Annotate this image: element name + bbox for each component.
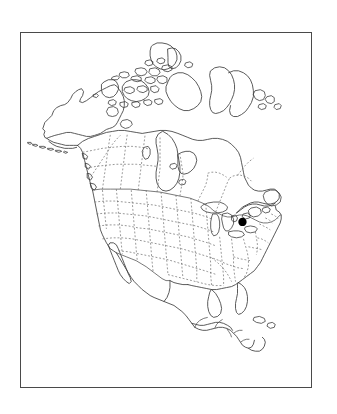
landmass-greenland-edge xyxy=(210,67,282,117)
landmass-pacific-northwest-coast xyxy=(78,145,97,190)
water-hudson-bay xyxy=(156,131,197,191)
study-site-marker xyxy=(238,218,246,226)
subnational-borders-us xyxy=(94,189,278,285)
figure-root xyxy=(0,0,337,414)
landmass-mexico-central-america xyxy=(192,290,275,352)
landmass-united-states xyxy=(93,189,282,327)
subnational-borders-canada xyxy=(83,134,254,212)
map-canvas xyxy=(21,33,311,387)
landmass-arctic-archipelago xyxy=(94,43,202,111)
water-great-lakes xyxy=(201,202,258,238)
landmass-alaska xyxy=(28,85,124,154)
map-frame xyxy=(20,32,312,388)
landmass-canada-mainland xyxy=(78,130,280,213)
